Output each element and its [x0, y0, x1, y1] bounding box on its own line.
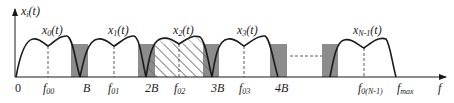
- tick-2B: 2B: [145, 81, 159, 95]
- signal-label-x1: x1(t): [107, 23, 129, 38]
- tick-0: 0: [15, 81, 21, 95]
- y-axis-label: xi(t): [20, 4, 40, 19]
- tick-f00: f00: [43, 81, 54, 96]
- tick-f01: f01: [108, 81, 119, 96]
- curve-xN-1: [330, 38, 396, 77]
- tick-f03: f03: [239, 81, 250, 96]
- signal-label-x3: x3(t): [236, 23, 258, 38]
- tick-labels: 0 f00 B f01 2B f02 3B f03 4B f0(N-1) fma…: [15, 81, 443, 96]
- tick-4B: 4B: [275, 81, 289, 95]
- tick-f02: f02: [174, 81, 185, 96]
- guard-band-last: [322, 44, 338, 77]
- signal-labels: x0(t) x1(t) x2(t) x3(t) xN-1(t): [41, 23, 382, 38]
- tick-B: B: [83, 81, 91, 95]
- signal-label-x2: x2(t): [172, 23, 194, 38]
- x-axis-label: f: [438, 81, 443, 95]
- signal-label-x0: x0(t): [41, 23, 63, 38]
- signal-label-xN-1: xN-1(t): [352, 23, 382, 38]
- guard-band-4B: [270, 44, 287, 77]
- tick-fmax: fmax: [397, 81, 414, 96]
- curve-x1: [80, 36, 146, 77]
- spectrum-diagram: xi(t) x0(t) x1(t) x2(t) x3(t) xN-1(t) 0 …: [0, 0, 454, 103]
- tick-f0N-1: f0(N-1): [358, 81, 383, 96]
- curve-x3: [212, 36, 278, 77]
- tick-3B: 3B: [210, 81, 225, 95]
